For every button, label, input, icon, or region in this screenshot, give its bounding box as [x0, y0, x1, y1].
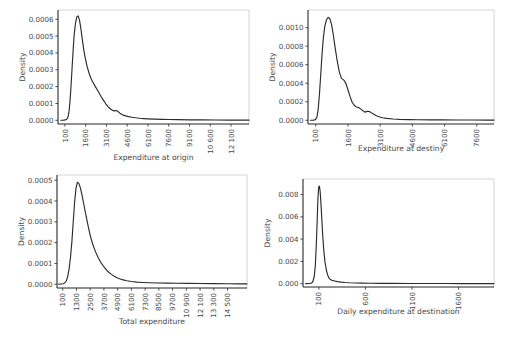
svg-text:Density: Density: [263, 218, 272, 247]
svg-text:100: 100: [311, 129, 320, 143]
svg-text:0.0001: 0.0001: [29, 99, 54, 108]
svg-text:7600: 7600: [472, 129, 481, 148]
svg-text:6100: 6100: [127, 293, 136, 312]
panel-expenditure-at-origin: 0.00000.00010.00020.00030.00040.00050.00…: [0, 0, 253, 171]
svg-text:4900: 4900: [113, 293, 122, 312]
svg-text:0.0002: 0.0002: [279, 97, 304, 106]
svg-text:600: 600: [361, 292, 370, 306]
svg-text:Daily expenditure at destinati: Daily expenditure at destination: [337, 307, 460, 316]
svg-text:0.0003: 0.0003: [28, 217, 53, 226]
svg-text:Total expenditure: Total expenditure: [118, 317, 185, 326]
svg-text:9100: 9100: [185, 129, 194, 148]
svg-text:Expenditure at destiny: Expenditure at destiny: [358, 144, 445, 153]
panel-daily-expenditure-at-destination: 0.0000.0020.0040.0060.00810060011001600D…: [253, 171, 506, 342]
svg-text:0.0006: 0.0006: [29, 15, 54, 24]
svg-text:12 100: 12 100: [227, 129, 236, 154]
svg-text:0.0005: 0.0005: [28, 176, 53, 185]
svg-text:9700: 9700: [168, 293, 177, 312]
svg-text:0.0008: 0.0008: [279, 42, 304, 51]
svg-text:0.0002: 0.0002: [29, 82, 54, 91]
svg-text:1300: 1300: [72, 293, 81, 312]
svg-text:0.0004: 0.0004: [28, 197, 53, 206]
svg-text:1600: 1600: [344, 129, 353, 148]
svg-text:0.0000: 0.0000: [279, 116, 304, 125]
svg-text:4600: 4600: [123, 129, 132, 148]
panel-total-expenditure: 0.00000.00010.00020.00030.00040.00051001…: [0, 171, 253, 342]
svg-text:0.0010: 0.0010: [279, 23, 304, 32]
svg-text:Density: Density: [268, 52, 277, 81]
chart-daily-expenditure-at-destination: 0.0000.0020.0040.0060.00810060011001600D…: [253, 171, 506, 342]
svg-text:Density: Density: [17, 217, 26, 246]
svg-text:0.006: 0.006: [278, 212, 299, 221]
svg-text:3100: 3100: [102, 129, 111, 148]
panel-expenditure-at-destiny: 0.00000.00020.00040.00060.00080.00101001…: [253, 0, 506, 171]
svg-text:100: 100: [61, 129, 70, 143]
svg-text:3700: 3700: [100, 293, 109, 312]
svg-text:13 300: 13 300: [209, 293, 218, 318]
svg-text:10 600: 10 600: [206, 129, 215, 154]
svg-text:0.0004: 0.0004: [29, 48, 54, 57]
svg-text:10 900: 10 900: [182, 293, 191, 318]
svg-text:14 500: 14 500: [223, 293, 232, 318]
chart-total-expenditure: 0.00000.00010.00020.00030.00040.00051001…: [0, 171, 253, 342]
svg-text:8500: 8500: [154, 293, 163, 312]
svg-text:0.0000: 0.0000: [29, 116, 54, 125]
svg-text:6100: 6100: [144, 129, 153, 148]
svg-text:0.008: 0.008: [278, 190, 299, 199]
svg-text:0.000: 0.000: [278, 279, 299, 288]
svg-text:Expenditure at origin: Expenditure at origin: [113, 153, 193, 162]
svg-text:1600: 1600: [81, 129, 90, 148]
svg-text:100: 100: [314, 292, 323, 306]
svg-text:7300: 7300: [141, 293, 150, 312]
svg-text:2500: 2500: [86, 293, 95, 312]
svg-text:7600: 7600: [164, 129, 173, 148]
svg-text:12 100: 12 100: [196, 293, 205, 318]
svg-text:0.0005: 0.0005: [29, 32, 54, 41]
svg-text:0.002: 0.002: [278, 257, 298, 266]
svg-text:0.0000: 0.0000: [28, 280, 53, 289]
svg-text:100: 100: [58, 293, 67, 307]
chart-expenditure-at-destiny: 0.00000.00020.00040.00060.00080.00101001…: [253, 0, 506, 171]
svg-text:Density: Density: [18, 52, 27, 81]
svg-text:0.0003: 0.0003: [29, 65, 54, 74]
chart-expenditure-at-origin: 0.00000.00010.00020.00030.00040.00050.00…: [0, 0, 253, 171]
svg-text:0.0004: 0.0004: [279, 79, 304, 88]
svg-text:0.0002: 0.0002: [28, 238, 53, 247]
svg-text:0.004: 0.004: [278, 235, 299, 244]
svg-text:0.0001: 0.0001: [28, 259, 53, 268]
svg-text:0.0006: 0.0006: [279, 60, 304, 69]
